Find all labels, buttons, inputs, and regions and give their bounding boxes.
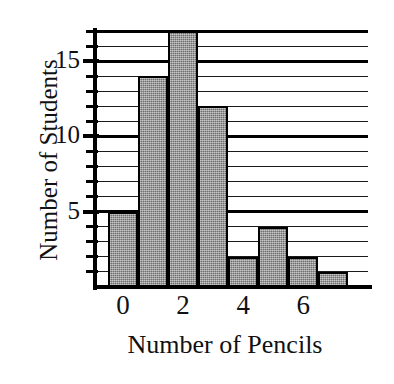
histogram-bar (108, 212, 138, 287)
y-axis-tick (86, 255, 98, 258)
y-axis-tick (86, 30, 98, 33)
y-axis-tick (83, 210, 99, 214)
x-axis-tick-label: 6 (283, 292, 323, 319)
y-axis-tick (86, 165, 98, 168)
y-axis-tick (86, 240, 98, 243)
y-axis-tick-labels: 51015 (0, 0, 80, 384)
gridline (97, 30, 368, 33)
histogram-bar (258, 227, 288, 287)
y-axis-tick (83, 134, 99, 138)
histogram-bar (168, 31, 198, 287)
plot-area (97, 31, 368, 287)
y-axis-tick (86, 120, 98, 123)
y-axis-tick (86, 75, 98, 78)
y-axis-tick (86, 225, 98, 228)
histogram-bar (138, 76, 168, 287)
histogram-figure: Number of Students 51015 Number of Penci… (0, 0, 394, 384)
gridline (97, 46, 368, 47)
x-axis-title: Number of Pencils (60, 330, 390, 360)
y-axis-tick (86, 180, 98, 183)
y-axis-tick (83, 59, 99, 63)
gridline (97, 60, 368, 63)
y-axis-tick-label: 10 (38, 122, 80, 147)
y-axis-tick (86, 150, 98, 153)
histogram-bar (228, 257, 258, 287)
y-axis-tick (86, 45, 98, 48)
y-axis-tick (86, 270, 98, 273)
x-axis-tick-label: 0 (103, 292, 143, 319)
y-axis-tick (86, 195, 98, 198)
histogram-bar (288, 257, 318, 287)
y-axis-tick (86, 105, 98, 108)
x-axis-tick-label: 4 (223, 292, 263, 319)
x-axis-tick-label: 2 (163, 292, 203, 319)
histogram-bar (318, 272, 348, 287)
y-axis-tick (86, 90, 98, 93)
y-axis-tick-label: 15 (38, 47, 80, 72)
y-axis-tick-label: 5 (38, 198, 80, 223)
histogram-bar (198, 106, 228, 287)
